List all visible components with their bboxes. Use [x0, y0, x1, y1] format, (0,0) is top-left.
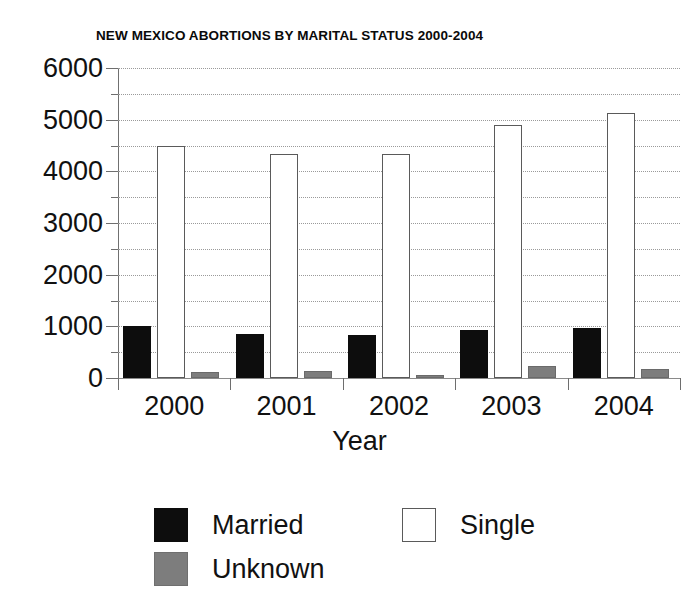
legend-entry-single: Single [402, 508, 535, 542]
x-tick [455, 378, 456, 390]
x-tick [680, 378, 681, 390]
y-tick-major [106, 171, 118, 172]
bar-married-2001 [236, 334, 264, 378]
legend-entry-unknown: Unknown [154, 552, 325, 586]
y-tick-major [106, 378, 118, 379]
y-axis-label: 1000 [43, 313, 103, 340]
x-tick [343, 378, 344, 390]
chart-legend: Married Single Unknown [154, 508, 584, 590]
x-axis-label-2002: 2002 [369, 393, 429, 420]
y-axis-label: 6000 [43, 55, 103, 82]
bar-unknown-2002 [416, 375, 444, 379]
bar-single-2004 [607, 113, 635, 379]
legend-row: Married Single [154, 508, 584, 552]
bar-married-2000 [123, 326, 151, 378]
x-tick [568, 378, 569, 390]
bar-unknown-2000 [191, 372, 219, 378]
legend-label-single: Single [460, 512, 535, 539]
y-axis-label: 0 [88, 365, 103, 392]
bar-single-2001 [270, 154, 298, 378]
bar-married-2003 [460, 330, 488, 379]
legend-entry-married: Married [154, 508, 304, 542]
y-tick-minor [111, 301, 118, 302]
chart-title: NEW MEXICO ABORTIONS BY MARITAL STATUS 2… [96, 28, 656, 43]
bar-group-2002 [343, 68, 455, 378]
y-axis-label: 5000 [43, 106, 103, 133]
bar-group-2003 [455, 68, 567, 378]
y-axis-label: 2000 [43, 261, 103, 288]
x-tick [118, 378, 119, 390]
x-axis-title: Year [0, 428, 697, 455]
y-tick-minor [111, 352, 118, 353]
x-axis-label-2003: 2003 [481, 393, 541, 420]
legend-label-married: Married [212, 512, 304, 539]
plot-area: 0100020003000400050006000 [118, 68, 680, 378]
bar-group-2000 [118, 68, 230, 378]
x-axis-line [106, 378, 681, 379]
bar-unknown-2003 [528, 366, 556, 378]
legend-swatch-unknown-icon [154, 552, 188, 586]
legend-row: Unknown [154, 552, 584, 590]
bar-single-2003 [494, 125, 522, 378]
y-axis-label: 3000 [43, 210, 103, 237]
bar-group-2001 [230, 68, 342, 378]
bar-unknown-2001 [304, 371, 332, 378]
y-tick-minor [111, 197, 118, 198]
y-tick-minor [111, 249, 118, 250]
y-tick-minor [111, 94, 118, 95]
x-axis-label-2001: 2001 [257, 393, 317, 420]
y-axis-label: 4000 [43, 158, 103, 185]
bar-unknown-2004 [641, 369, 669, 378]
bar-single-2002 [382, 154, 410, 378]
legend-swatch-single-icon [402, 508, 436, 542]
x-axis-label-2004: 2004 [594, 393, 654, 420]
bar-group-2004 [568, 68, 680, 378]
legend-label-unknown: Unknown [212, 556, 325, 583]
bar-married-2002 [348, 335, 376, 378]
y-tick-major [106, 120, 118, 121]
bar-single-2000 [157, 146, 185, 378]
legend-swatch-married-icon [154, 508, 188, 542]
y-tick-major [106, 68, 118, 69]
y-tick-major [106, 223, 118, 224]
y-tick-minor [111, 146, 118, 147]
x-axis-label-2000: 2000 [144, 393, 204, 420]
y-tick-major [106, 326, 118, 327]
bar-married-2004 [573, 328, 601, 378]
x-tick [230, 378, 231, 390]
y-tick-major [106, 275, 118, 276]
